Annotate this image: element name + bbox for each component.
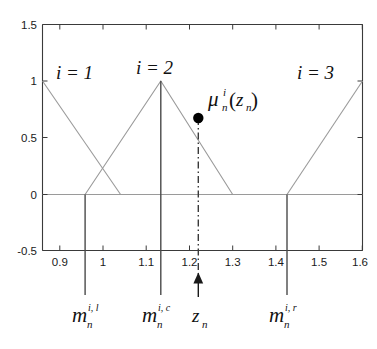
x-tick-label: 1.2 [182,256,198,268]
mu-paren-close: ) [251,88,258,112]
mu-expression: μ n i ( z n ) [207,86,258,113]
x-tick-label: 1 [100,256,106,268]
mu-superscript: i [223,86,226,98]
x-tick-label: 1.5 [311,256,327,268]
m-left-subscript: n [87,318,93,330]
mu-paren-open: ( [229,88,236,112]
m-right-base: m [269,303,284,327]
y-tick-label: 0 [31,189,37,201]
m-center-subscript: n [157,318,163,330]
x-tick-label: 1.1 [138,256,154,268]
z-subscript: n [202,318,208,330]
mu-subscript: n [222,101,228,113]
label-i-3: i = 3 [297,62,334,83]
m-left-superscript: i, l [88,302,99,313]
figure-container: 1.5 1 0.5 0 -0.5 0.9 1 1.1 1.2 1.3 1.4 1… [0,0,377,349]
label-i-2: i = 2 [136,57,174,78]
membership-function-chart: 1.5 1 0.5 0 -0.5 0.9 1 1.1 1.2 1.3 1.4 1… [0,0,377,349]
label-i-1: i = 1 [56,62,93,83]
y-tick-label: 1 [31,75,37,87]
x-tick-label: 1.6 [352,256,368,268]
y-tick-label: 1.5 [21,19,37,31]
chart-background [0,0,377,349]
x-tick-label: 1.3 [225,256,241,268]
m-center-superscript: i, c [158,302,171,313]
m-center-base: m [142,303,157,327]
x-tick-label: 0.9 [52,256,68,268]
y-tick-label: -0.5 [17,245,37,257]
x-tick-label: 1.4 [268,256,285,268]
membership-value-dot [193,113,203,123]
z-base: z [191,305,200,326]
y-tick-label: 0.5 [21,132,37,144]
m-right-superscript: i, r [285,302,297,313]
mu-base: μ [207,87,219,111]
m-right-subscript: n [284,318,290,330]
mu-arg-base: z [235,89,244,110]
m-left-base: m [72,303,87,327]
